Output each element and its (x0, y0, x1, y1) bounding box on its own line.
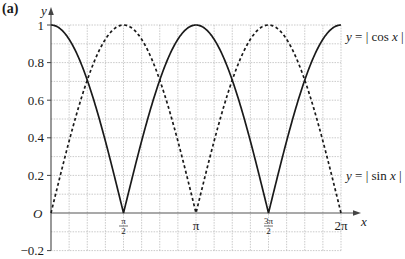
sin-curve-label: y = | sin x | (344, 168, 402, 183)
panel-label: (a) (2, 1, 19, 17)
y-tick-label: 0.6 (28, 93, 45, 108)
y-tick-label: 0.4 (28, 130, 45, 145)
x-tick-label-numerator: 3π (264, 216, 274, 226)
grid (51, 25, 341, 251)
y-tick-label: 1 (38, 18, 45, 33)
chart: −0.20.20.40.60.81π2π3π22π (a) y x O y = … (0, 0, 405, 259)
y-axis-arrow-icon (48, 7, 54, 15)
y-tick-label: 0.8 (28, 55, 44, 70)
cos-curve-label: y = | cos x | (344, 29, 404, 44)
x-tick-label-numerator: π (121, 216, 126, 226)
x-tick-label-denominator: 2 (266, 226, 271, 236)
x-tick-label-denominator: 2 (121, 226, 126, 236)
origin-label: O (33, 206, 43, 221)
x-tick-label: π (193, 218, 200, 233)
x-axis-arrow-icon (353, 210, 361, 216)
x-axis-label: x (360, 214, 367, 229)
y-tick-label: −0.2 (20, 243, 44, 258)
x-tick-label: 2π (334, 218, 348, 233)
y-tick-label: 0.2 (28, 168, 44, 183)
y-axis-label: y (39, 3, 47, 18)
